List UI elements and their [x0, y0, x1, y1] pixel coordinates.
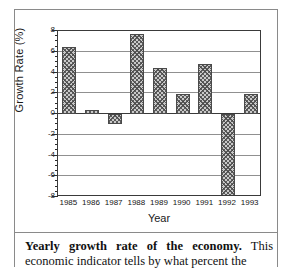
x-axis-tick-label: 1991: [195, 198, 213, 208]
bar: [85, 110, 99, 114]
x-axis-tick-label: 1990: [173, 198, 191, 208]
gridline: [58, 51, 260, 52]
bar: [62, 47, 76, 114]
bar: [244, 94, 258, 114]
figure-caption: Yearly growth rate of the economy. This …: [25, 239, 273, 269]
bar: [221, 114, 235, 196]
figure-panel: Growth Rate (%) 86420-2-4-6-8 1985198619…: [0, 0, 292, 270]
caption-heading: Yearly growth rate of the economy.: [25, 239, 242, 253]
bar: [108, 114, 122, 124]
bar: [176, 94, 190, 114]
x-axis-tick-label: 1986: [82, 198, 100, 208]
y-axis-title: Growth Rate (%): [13, 15, 25, 125]
bar-chart: Growth Rate (%) 86420-2-4-6-8 1985198619…: [0, 0, 292, 228]
x-axis-tick-labels: 198519861987198819891990199119921993: [57, 198, 261, 210]
bar: [198, 64, 212, 114]
x-axis-tick-label: 1988: [127, 198, 145, 208]
x-axis-tick-label: 1987: [105, 198, 123, 208]
x-axis-tick-label: 1985: [59, 198, 77, 208]
plot-area: [57, 30, 261, 196]
x-axis-tick-label: 1989: [150, 198, 168, 208]
bar: [130, 34, 144, 114]
caption-divider: [15, 232, 277, 233]
y-tick-major: [52, 196, 58, 197]
x-axis-tick-label: 1992: [218, 198, 236, 208]
bar: [153, 68, 167, 114]
x-axis-title: Year: [57, 212, 261, 224]
x-axis-tick-label: 1993: [241, 198, 259, 208]
